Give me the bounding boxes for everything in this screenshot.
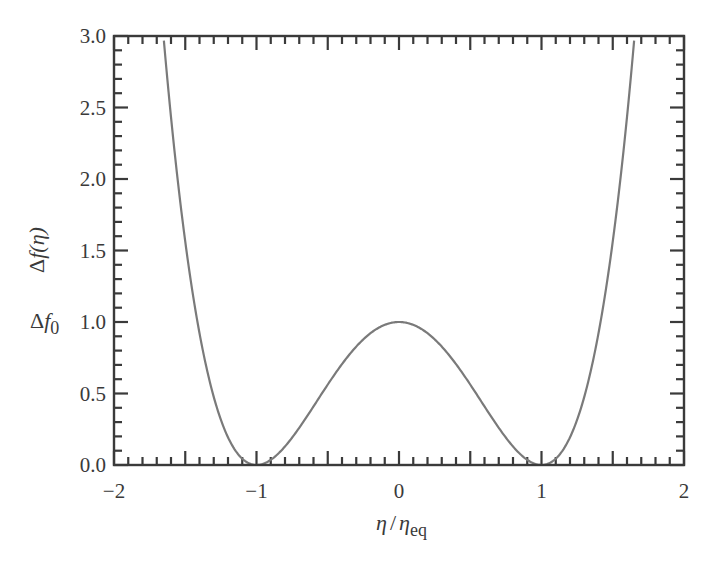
plot-frame <box>114 36 684 465</box>
y-tick-label: 2.0 <box>80 167 106 191</box>
y-tick-labels: 0.00.51.01.52.02.53.0 <box>80 24 106 477</box>
y-tick-label: 2.5 <box>80 96 106 120</box>
double-well-curve <box>164 41 634 465</box>
y-tick-label: 1.5 <box>80 239 106 263</box>
y-axis-label: Δf(η) <box>24 227 49 273</box>
x-tick-labels: −2−1012 <box>103 479 689 503</box>
x-tick-label: 1 <box>536 479 547 503</box>
minor-ticks <box>114 36 684 465</box>
y-tick-label: 1.0 <box>80 310 106 334</box>
x-axis-label: η/ηeq <box>376 510 427 540</box>
chart: −2−1012 0.00.51.01.52.02.53.0 Δf(η) Δf0 … <box>0 0 715 562</box>
y-tick-label: 0.0 <box>80 453 106 477</box>
y-tick-label: 0.5 <box>80 382 106 406</box>
x-tick-label: −2 <box>103 479 125 503</box>
y-tick-label: 3.0 <box>80 24 106 48</box>
delta-f0-annotation: Δf0 <box>30 308 59 338</box>
major-ticks <box>114 36 684 465</box>
x-tick-label: 0 <box>394 479 405 503</box>
x-tick-label: −1 <box>245 479 267 503</box>
x-tick-label: 2 <box>679 479 690 503</box>
